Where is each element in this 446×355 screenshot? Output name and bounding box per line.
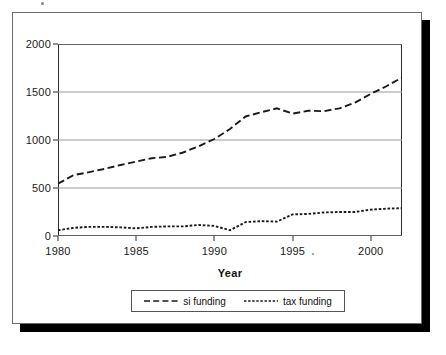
x-tick-mark [136,236,137,241]
x-axis-title: Year [58,267,402,279]
x-tick-label: 1980 [45,245,70,257]
scan-speck [312,253,314,255]
short-dash-line-icon [244,297,278,305]
x-tick-mark [58,236,59,241]
x-tick-mark [292,236,293,241]
y-tick-mark [53,188,58,189]
long-dash-line-icon [144,297,178,305]
x-tick-mark [214,236,215,241]
x-tick-label: 1990 [202,245,227,257]
x-tick-label: 1985 [124,245,149,257]
y-tick-label: 1500 [26,86,51,98]
legend-item-tax-funding: tax funding [244,296,332,307]
series-line-si-funding [58,78,402,184]
y-tick-label: 1000 [26,134,51,146]
y-tick-label: 0 [45,230,51,242]
x-tick-label: 2000 [358,245,383,257]
series-line-tax-funding [58,208,402,230]
x-tick-label: 1995 [280,245,305,257]
y-tick-mark [53,92,58,93]
y-tick-label: 2000 [26,38,51,50]
chart-figure: 0500100015002000 19801985199019952000 Ye… [12,12,422,324]
legend-item-si-funding: si funding [144,296,226,307]
series-lines [58,44,402,236]
y-tick-mark [53,140,58,141]
scan-speck [41,2,44,5]
y-tick-mark [53,44,58,45]
legend-label-si-funding: si funding [183,296,226,307]
plot-area: 0500100015002000 19801985199019952000 [58,44,402,236]
legend-label-tax-funding: tax funding [283,296,332,307]
figure-frame: 0500100015002000 19801985199019952000 Ye… [12,12,422,324]
chart-legend: si funding tax funding [131,290,345,312]
y-tick-label: 500 [32,182,51,194]
x-tick-mark [370,236,371,241]
